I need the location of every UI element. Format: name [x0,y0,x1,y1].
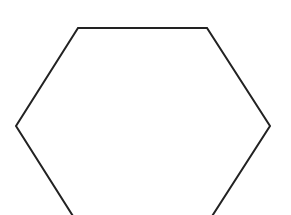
diagram-canvas [0,0,291,215]
